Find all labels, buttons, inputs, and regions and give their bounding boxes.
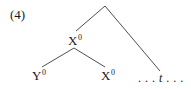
node-base: X <box>68 33 77 48</box>
trace-node: . . . t . . . <box>138 72 184 84</box>
node-x0-leaf: X0 <box>101 69 115 82</box>
edge-x0-to-y0 <box>42 48 74 67</box>
trace-suffix: . . . <box>163 71 184 85</box>
node-superscript: 0 <box>78 33 82 42</box>
node-y0-leaf: Y0 <box>32 69 46 82</box>
node-base: X <box>101 68 110 83</box>
edge-root-to-trace <box>105 6 160 71</box>
edge-x0-to-x0-leaf <box>74 48 105 67</box>
edge-root-to-x0 <box>76 6 105 31</box>
node-superscript: 0 <box>111 68 115 77</box>
node-base: Y <box>32 68 41 83</box>
node-x0-mid: X0 <box>68 34 82 47</box>
node-superscript: 0 <box>42 68 46 77</box>
trace-prefix: . . . <box>138 71 159 85</box>
